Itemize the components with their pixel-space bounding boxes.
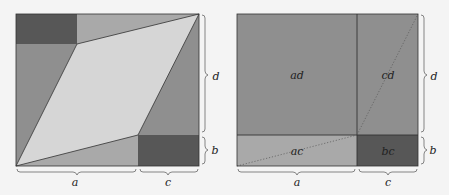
- label-bc: bc: [381, 145, 394, 158]
- label-b-right: b: [429, 144, 436, 157]
- brace-a-right: [238, 169, 355, 175]
- brace-b-left: [202, 137, 208, 164]
- right-figure: ad cd ac bc a c d b: [237, 14, 438, 189]
- label-cd: cd: [381, 69, 394, 82]
- label-a-left: a: [72, 176, 79, 189]
- label-c-left: c: [165, 176, 171, 189]
- diagram-svg: a c d b ad cd ac bc a: [0, 0, 449, 195]
- label-b-left: b: [211, 144, 218, 157]
- left-top-dark-square: [16, 14, 77, 44]
- brace-c-left: [140, 169, 198, 175]
- brace-d-right: [421, 15, 427, 132]
- brace-d-left: [202, 15, 208, 132]
- label-c-right: c: [385, 176, 391, 189]
- left-figure: a c d b: [16, 14, 220, 189]
- label-d-left: d: [212, 70, 219, 83]
- left-bottom-dark-square: [138, 135, 199, 166]
- brace-c-right: [359, 169, 417, 175]
- label-ac: ac: [291, 145, 304, 158]
- label-ad: ad: [290, 69, 304, 82]
- brace-a-left: [17, 169, 136, 175]
- label-d-right: d: [430, 70, 437, 83]
- brace-b-right: [421, 137, 427, 164]
- diagram-canvas: a c d b ad cd ac bc a: [0, 0, 449, 195]
- label-a-right: a: [294, 176, 301, 189]
